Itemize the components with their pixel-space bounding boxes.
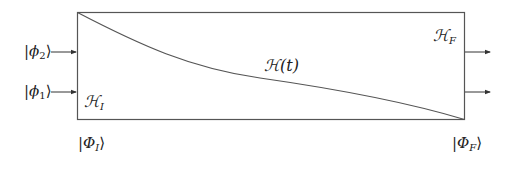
time-dependent-hamiltonian-label: ℋ(t) (264, 58, 299, 74)
ket-suffix: ⟩ (476, 134, 482, 152)
hamiltonian-symbol: ℋ (84, 92, 100, 111)
ket-suffix: ⟩ (99, 134, 105, 152)
ket-prefix: |ϕ (24, 82, 39, 100)
hamiltonian-subscript: I (100, 101, 104, 112)
ket-prefix: |ϕ (24, 42, 39, 60)
initial-state-label: |ΦI⟩ (78, 136, 105, 153)
final-hamiltonian-label: ℋF (433, 28, 456, 46)
ket-suffix: ⟩ (46, 82, 52, 100)
input-label-phi2: |ϕ2⟩ (24, 44, 52, 61)
final-state-label: |ΦF⟩ (452, 136, 482, 153)
input-label-phi1: |ϕ1⟩ (24, 84, 52, 101)
ket-prefix: |Φ (452, 134, 469, 152)
ket-prefix: |Φ (78, 134, 95, 152)
hamiltonian-subscript: F (449, 35, 456, 46)
ket-suffix: ⟩ (46, 42, 52, 60)
initial-hamiltonian-label: ℋI (84, 94, 104, 112)
hamiltonian-symbol: ℋ (433, 26, 449, 45)
